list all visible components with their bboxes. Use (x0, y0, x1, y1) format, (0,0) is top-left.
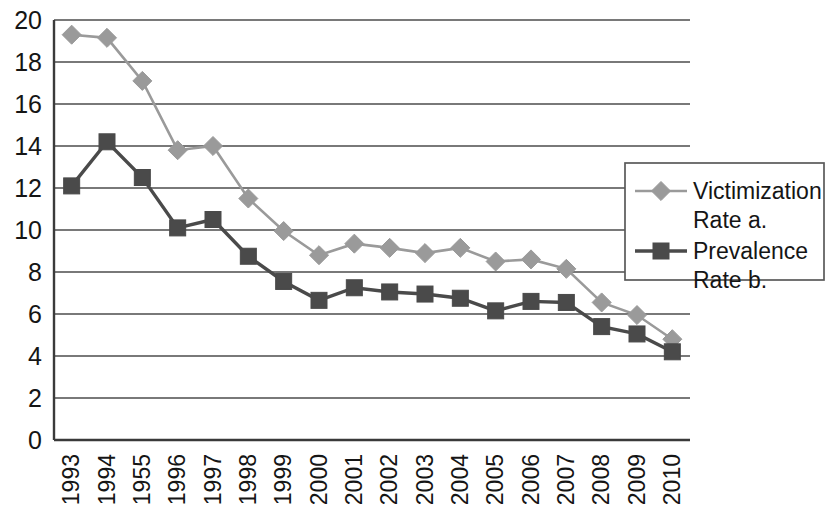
x-tick-label: 2006 (518, 454, 544, 505)
y-tick-label: 20 (14, 6, 42, 34)
x-tick-label: 1994 (94, 454, 120, 505)
x-tick-label: 2002 (376, 454, 402, 505)
x-tick-label: 2005 (482, 454, 508, 505)
data-point-marker (653, 243, 669, 259)
x-axis-tick-labels: 1993199419551996199719981999200020012002… (58, 454, 685, 505)
y-tick-label: 18 (14, 48, 42, 76)
data-point-marker (346, 280, 362, 296)
data-point-marker (521, 250, 540, 269)
x-tick-label: 1997 (200, 454, 226, 505)
data-point-marker (486, 252, 505, 271)
x-tick-label: 2003 (412, 454, 438, 505)
x-tick-label: 2010 (659, 454, 685, 505)
data-point-marker (488, 303, 504, 319)
y-tick-label: 6 (28, 300, 42, 328)
data-point-marker (134, 170, 150, 186)
y-tick-label: 8 (28, 258, 42, 286)
series-line (72, 35, 673, 340)
y-tick-label: 4 (28, 342, 42, 370)
chart-canvas: 02468101214161820 1993199419551996199719… (0, 0, 840, 507)
legend-label-line1: Victimization (693, 178, 822, 204)
data-series (62, 25, 682, 360)
x-tick-label: 2009 (624, 454, 650, 505)
data-point-marker (627, 306, 646, 325)
legend-label-line2: Rate a. (693, 207, 767, 233)
data-point-marker (170, 220, 186, 236)
series-1 (62, 25, 682, 349)
data-point-marker (558, 294, 574, 310)
data-point-marker (62, 25, 81, 44)
data-point-marker (382, 284, 398, 300)
data-point-marker (523, 293, 539, 309)
x-tick-label: 2004 (447, 454, 473, 505)
data-point-marker (629, 326, 645, 342)
data-point-marker (276, 273, 292, 289)
x-tick-label: 1996 (164, 454, 190, 505)
data-point-marker (64, 178, 80, 194)
data-point-marker (345, 234, 364, 253)
data-point-marker (415, 244, 434, 263)
data-point-marker (203, 136, 222, 155)
y-tick-label: 16 (14, 90, 42, 118)
data-point-marker (168, 141, 187, 160)
data-point-marker (240, 248, 256, 264)
x-tick-label: 1999 (270, 454, 296, 505)
y-tick-label: 2 (28, 384, 42, 412)
y-axis-tick-labels: 02468101214161820 (14, 6, 42, 454)
x-tick-label: 1993 (58, 454, 84, 505)
y-tick-label: 10 (14, 216, 42, 244)
x-tick-label: 2007 (553, 454, 579, 505)
x-tick-label: 2008 (588, 454, 614, 505)
x-tick-label: 1955 (129, 454, 155, 505)
line-chart: 02468101214161820 1993199419551996199719… (0, 0, 840, 507)
y-tick-label: 0 (28, 426, 42, 454)
y-tick-label: 12 (14, 174, 42, 202)
x-tick-label: 2000 (306, 454, 332, 505)
y-tick-label: 14 (14, 132, 42, 160)
data-point-marker (594, 319, 610, 335)
data-point-marker (99, 134, 115, 150)
x-tick-label: 2001 (341, 454, 367, 505)
chart-legend: VictimizationRate a.PrevalenceRate b. (625, 163, 824, 293)
data-point-marker (451, 238, 470, 257)
data-point-marker (380, 238, 399, 257)
x-tick-label: 1998 (235, 454, 261, 505)
data-point-marker (452, 290, 468, 306)
data-point-marker (309, 246, 328, 265)
data-point-marker (417, 286, 433, 302)
legend-label-line1: Prevalence (693, 238, 808, 264)
data-point-marker (664, 344, 680, 360)
data-point-marker (311, 292, 327, 308)
legend-label-line2: Rate b. (693, 267, 767, 293)
data-point-marker (205, 212, 221, 228)
